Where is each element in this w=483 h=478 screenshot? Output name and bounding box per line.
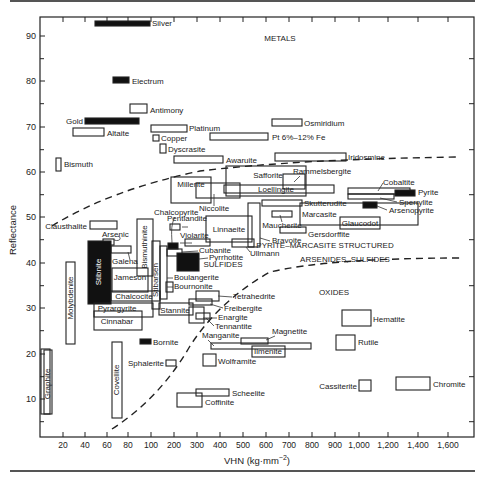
mineral-label: Pyrite <box>418 188 439 197</box>
mineral-box <box>90 221 117 229</box>
mineral-box <box>174 156 223 163</box>
mineral-label: Hematite <box>373 315 406 324</box>
mineral-box <box>160 144 166 153</box>
mineral-label: Tennantite <box>215 322 252 331</box>
y-tick-label: 10 <box>26 394 36 404</box>
mineral-label: Clausthalite <box>45 222 87 231</box>
mineral-label: Sphalerite <box>128 359 165 368</box>
mineral-box <box>111 246 131 253</box>
mineral-label: Electrum <box>132 77 164 86</box>
mineral-box <box>113 77 129 83</box>
mineral-boxes: SilverElectrumAntimonyGoldAltaitePlatinu… <box>41 19 466 418</box>
mineral-box <box>275 153 346 161</box>
x-tick-label: 500 <box>236 440 250 450</box>
mineral-label: Chromite <box>433 380 466 389</box>
x-tick-label: 60 <box>102 440 112 450</box>
x-tick-label: 300 <box>190 440 204 450</box>
mineral-label: Maucherite <box>262 221 302 230</box>
mineral-label: Osmiridium <box>304 119 345 128</box>
mineral-label: Tetrahedrite <box>233 292 276 301</box>
mineral-box <box>241 338 268 344</box>
mineral-label: Manganite <box>202 331 240 340</box>
mineral-label: Wolframite <box>218 357 257 366</box>
mineral-label: Bismuth <box>64 160 93 169</box>
mineral-label: Gersdorffite <box>308 230 350 239</box>
mineral-label: Jameson <box>114 273 146 282</box>
x-tick-label: 200 <box>167 440 181 450</box>
x-tick-label: 400 <box>213 440 227 450</box>
mineral-box <box>73 128 104 136</box>
mineral-label: Antimony <box>150 106 183 115</box>
mineral-box <box>153 135 159 141</box>
mineral-label: Covellite <box>112 364 121 395</box>
mineral-label: Coffinite <box>205 398 235 407</box>
mineral-label: Awaruite <box>226 156 258 165</box>
x-tick-label: 40 <box>80 440 90 450</box>
y-tick-label: 90 <box>26 31 36 41</box>
mineral-label: Pt 6%–12% Fe <box>272 133 326 142</box>
x-tick-label: 80 <box>123 440 133 450</box>
mineral-label: Chalcocite <box>115 292 153 301</box>
mineral-label: Freibergite <box>224 304 263 313</box>
mineral-label: Marcasite <box>302 210 337 219</box>
mineral-label: Violarite <box>180 231 209 240</box>
x-tick-label: 700 <box>282 440 296 450</box>
mineral-box <box>56 158 61 171</box>
mineral-box <box>363 202 377 208</box>
region-label: ARSENIDES, SULFIDES <box>300 255 390 264</box>
mineral-box <box>272 211 292 217</box>
mineral-label: Copper <box>161 134 188 143</box>
mineral-label: Scheelite <box>232 389 265 398</box>
mineral-box <box>203 354 216 366</box>
mineral-label: Skutterudite <box>304 199 347 208</box>
y-tick-label: 60 <box>26 167 36 177</box>
mineral-box <box>232 239 254 247</box>
mineral-box <box>185 239 210 246</box>
x-axis-label: VHN (kg·mm−2) <box>224 454 290 466</box>
mineral-label: Iridosmine <box>348 153 385 162</box>
x-tick-label: 1,000 <box>348 440 370 450</box>
mineral-label: Rutile <box>358 338 379 347</box>
mineral-label: Stibnite <box>94 258 103 285</box>
x-tick-label: 900 <box>328 440 342 450</box>
mineral-box <box>85 118 139 124</box>
x-tick-label: 100 <box>144 440 158 450</box>
y-tick-label: 50 <box>26 212 36 222</box>
x-tick-label: 1,400 <box>407 440 429 450</box>
mineral-label: Arsenic <box>102 230 129 239</box>
mineral-box <box>166 360 176 366</box>
region-label: METALS <box>264 34 295 43</box>
mineral-label: Molybdenite <box>66 276 75 320</box>
y-axis-label: Reflectance <box>7 205 18 255</box>
mineral-box <box>210 133 268 140</box>
mineral-label: Millerite <box>177 180 205 189</box>
x-tick-label: 1,600 <box>437 440 459 450</box>
mineral-box <box>151 125 187 132</box>
y-tick-label: 70 <box>26 122 36 132</box>
mineral-label: Rammelsbergite <box>293 167 352 176</box>
y-tick-label: 80 <box>26 76 36 86</box>
x-tick-label: 800 <box>305 440 319 450</box>
mineral-label: Stannite <box>160 306 190 315</box>
mineral-box <box>336 335 355 350</box>
mineral-label: Safforite <box>253 171 283 180</box>
mineral-label: Gold <box>66 117 83 126</box>
mineral-box <box>342 310 371 326</box>
x-tick-label: 600 <box>259 440 273 450</box>
mineral-label: Altaite <box>107 129 130 138</box>
y-tick-label: 20 <box>26 349 36 359</box>
mineral-label: Enargite <box>218 313 248 322</box>
mineral-label: Cinnabar <box>101 317 134 326</box>
region-label: PYRITE–MARCASITE STRUCTURED <box>256 241 394 250</box>
mineral-label: Arsenopyrite <box>389 206 434 215</box>
x-tick-label: 20 <box>58 440 68 450</box>
mineral-box <box>348 194 394 199</box>
mineral-box <box>177 393 202 407</box>
mineral-label: Magnetite <box>272 327 308 336</box>
mineral-label: Ilmenite <box>254 347 283 356</box>
mineral-label: Cassiterite <box>319 382 357 391</box>
mineral-label: Boulangerite <box>174 273 219 282</box>
mineral-box <box>395 190 415 196</box>
region-label: SULFIDES <box>203 260 242 269</box>
mineral-box <box>140 339 151 344</box>
